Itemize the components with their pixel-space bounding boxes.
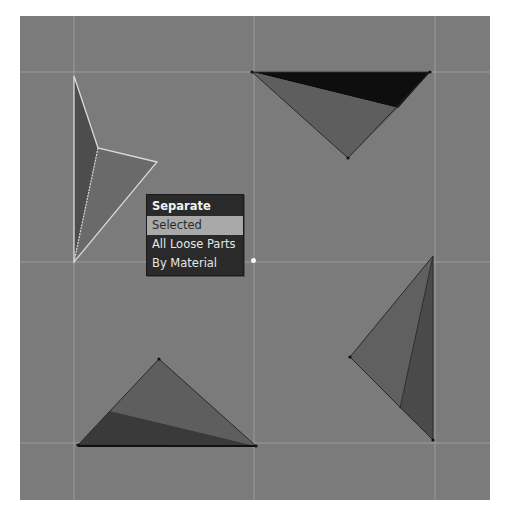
mesh-triangle-top-left[interactable] bbox=[74, 76, 157, 262]
menu-title: Separate bbox=[147, 197, 243, 216]
mesh-triangle-bottom-right[interactable] bbox=[348, 256, 434, 442]
mouse-cursor-dot bbox=[251, 258, 256, 263]
separate-popup-menu: Separate Selected All Loose Parts By Mat… bbox=[146, 194, 244, 276]
menu-item-all-loose-parts[interactable]: All Loose Parts bbox=[147, 235, 243, 254]
3d-viewport[interactable]: Separate Selected All Loose Parts By Mat… bbox=[20, 16, 490, 500]
menu-item-selected[interactable]: Selected bbox=[147, 216, 243, 235]
mesh-triangle-top-right[interactable] bbox=[250, 70, 431, 159]
mesh-triangle-bottom-left[interactable] bbox=[76, 357, 257, 447]
menu-item-by-material[interactable]: By Material bbox=[147, 254, 243, 273]
